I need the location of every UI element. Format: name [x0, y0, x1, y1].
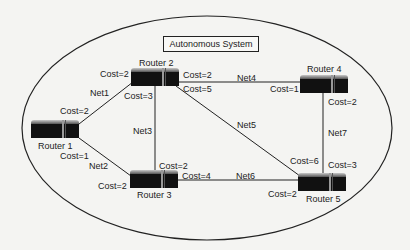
router-1-label: Router 1: [38, 141, 73, 151]
router-2-label: Router 2: [139, 58, 174, 68]
router-4-label: Router 4: [307, 64, 342, 74]
net2-cost-router3: Cost=2: [98, 181, 127, 191]
net6-cost-router5: Cost=2: [268, 189, 297, 199]
net7-cost-router4: Cost=2: [328, 97, 357, 107]
router-2-icon: [131, 68, 179, 86]
net4-cost-router4: Cost=1: [270, 84, 299, 94]
net3-label: Net3: [133, 126, 152, 136]
net3-cost-router2: Cost=3: [124, 91, 153, 101]
autonomous-system-title: Autonomous System: [163, 36, 259, 52]
net1-label: Net1: [90, 88, 109, 98]
net6-cost-router3: Cost=4: [182, 171, 211, 181]
net1-cost-router2: Cost=2: [100, 69, 129, 79]
net5-cost-router5: Cost=6: [290, 156, 319, 166]
router-1-icon: [31, 120, 79, 138]
net4-cost-router2: Cost=2: [183, 70, 212, 80]
net5-link: [176, 86, 300, 176]
net4-label: Net4: [237, 73, 256, 83]
net2-cost-router1: Cost=1: [60, 151, 89, 161]
router-5-icon: [298, 173, 346, 191]
router-4-icon: [300, 75, 348, 93]
net5-label: Net5: [237, 120, 256, 130]
router-5-label: Router 5: [306, 194, 341, 204]
router-3-icon: [130, 170, 178, 188]
net7-label: Net7: [328, 128, 347, 138]
net3-cost-router3: Cost=2: [159, 161, 188, 171]
net6-label: Net6: [236, 171, 255, 181]
net7-cost-router5: Cost=3: [328, 160, 357, 170]
router-3-label: Router 3: [137, 190, 172, 200]
net2-label: Net2: [89, 161, 108, 171]
autonomous-system-diagram: Autonomous System Router 1 Router 2 Rout…: [0, 0, 410, 250]
net1-cost-router1: Cost=2: [60, 106, 89, 116]
net5-cost-router2: Cost=5: [183, 84, 212, 94]
